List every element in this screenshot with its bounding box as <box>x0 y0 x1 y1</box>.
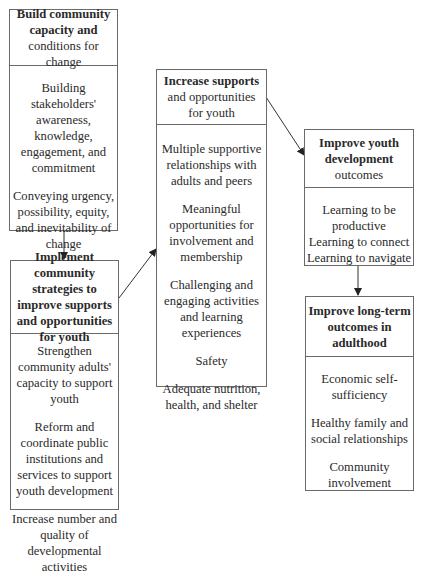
list-item: Multiple supportive relationships with a… <box>158 141 265 189</box>
list-item: Adequate nutrition, health, and shelter <box>158 381 265 413</box>
arrow-strategies-to-supports <box>119 249 156 298</box>
list-item: Reform and coordinate public institution… <box>12 419 117 499</box>
box-body: Learning to be productive Learning to co… <box>305 202 413 266</box>
box-subtitle: and opportunities for youth <box>168 90 256 120</box>
box-body: Strengthen community adults' capacity to… <box>11 343 118 575</box>
list-item: Learning to be productive <box>306 202 412 234</box>
list-item: Learning to navigate <box>306 250 412 266</box>
box-header: Improve long-term outcomes in adulthood <box>306 297 413 357</box>
box-title: Increase supports <box>164 74 259 88</box>
list-item: Challenging and engaging activities and … <box>158 277 265 341</box>
list-item: Safety <box>158 353 265 369</box>
box-build-capacity: Build community capacity andconditions f… <box>9 9 118 231</box>
list-item: Economic self-sufficiency <box>307 371 412 403</box>
list-item: Community involvement <box>307 459 412 491</box>
box-title: Implement community strategies to improv… <box>17 250 113 344</box>
box-body: Multiple supportive relationships with a… <box>157 141 266 413</box>
box-title: Build community capacity and <box>17 7 110 37</box>
list-item: Learning to connect <box>306 234 412 250</box>
box-subtitle: conditions for change <box>28 39 98 69</box>
box-adult-outcomes: Improve long-term outcomes in adulthood … <box>305 296 414 491</box>
box-header: Implement community strategies to improv… <box>11 261 118 334</box>
list-item: Strengthen community adults' capacity to… <box>12 343 117 407</box>
box-subtitle: outcomes <box>335 168 383 182</box>
box-header: Improve youth developmentoutcomes <box>305 130 413 188</box>
list-item: Building stakeholders' awareness, knowle… <box>11 80 116 176</box>
list-item: Conveying urgency, possibility, equity, … <box>11 188 116 252</box>
list-item: Meaningful opportunities for involvement… <box>158 201 265 265</box>
box-title: Improve youth development <box>319 136 399 166</box>
arrow-supports-to-youth-outcomes <box>266 97 304 155</box>
box-implement-strategies: Implement community strategies to improv… <box>10 260 119 510</box>
list-item: Increase number and quality of developme… <box>12 511 117 575</box>
box-body: Building stakeholders' awareness, knowle… <box>10 80 117 252</box>
box-youth-outcomes: Improve youth developmentoutcomes Learni… <box>304 129 414 266</box>
box-body: Economic self-sufficiency Healthy family… <box>306 371 413 491</box>
box-increase-supports: Increase supportsand opportunities for y… <box>156 69 267 387</box>
box-header: Increase supportsand opportunities for y… <box>157 70 266 125</box>
list-item: Healthy family and social relationships <box>307 415 412 447</box>
box-header: Build community capacity andconditions f… <box>10 10 117 66</box>
box-title: Improve long-term outcomes in adulthood <box>308 304 410 350</box>
